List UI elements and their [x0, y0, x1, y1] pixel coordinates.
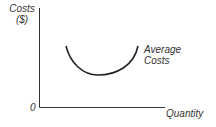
average-costs-curve — [66, 46, 138, 75]
curve-label: Average Costs — [144, 44, 181, 66]
y-axis-label: Costs ($) — [6, 3, 38, 25]
average-cost-chart: Costs ($) 0 Quantity Average Costs — [0, 0, 216, 127]
x-axis-label: Quantity — [166, 108, 203, 119]
curve-label-line-1: Average — [144, 44, 181, 55]
curve-label-line-2: Costs — [144, 55, 181, 66]
y-axis-label-line-2: ($) — [6, 14, 38, 25]
origin-label: 0 — [30, 102, 36, 113]
y-axis-label-line-1: Costs — [6, 3, 38, 14]
